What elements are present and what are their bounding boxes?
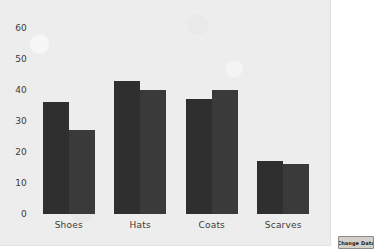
y-axis-tick-50: 50 [15, 54, 27, 64]
bar-shoes-series-2 [69, 130, 95, 214]
bar-shoes-series-1 [43, 102, 69, 214]
x-axis-label-shoes: Shoes [55, 220, 83, 230]
chart-panel: 60 50 40 30 20 10 0 Shoes Hats Coats [0, 0, 331, 246]
x-axis-label-coats: Coats [198, 220, 225, 230]
change-data-button[interactable]: Change Data [338, 236, 374, 249]
x-axis-label-hats: Hats [130, 220, 151, 230]
bar-group-coats: Coats [186, 28, 238, 214]
bar-group-hats: Hats [114, 28, 166, 214]
bar-container: Shoes Hats Coats Scarves [33, 28, 319, 214]
y-axis-tick-10: 10 [15, 178, 27, 188]
x-axis-label-scarves: Scarves [265, 220, 302, 230]
bar-coats-series-2 [212, 90, 238, 214]
y-axis-tick-30: 30 [15, 116, 27, 126]
bar-hats-series-2 [140, 90, 166, 214]
y-axis-tick-60: 60 [15, 23, 27, 33]
y-axis-tick-40: 40 [15, 85, 27, 95]
bar-group-scarves: Scarves [257, 28, 309, 214]
bar-coats-series-1 [186, 99, 212, 214]
bar-hats-series-1 [114, 81, 140, 214]
plot-area: 60 50 40 30 20 10 0 Shoes Hats Coats [33, 28, 319, 214]
y-axis-tick-20: 20 [15, 147, 27, 157]
bar-group-shoes: Shoes [43, 28, 95, 214]
y-axis-tick-0: 0 [21, 209, 27, 219]
bar-scarves-series-2 [283, 164, 309, 214]
bar-scarves-series-1 [257, 161, 283, 214]
